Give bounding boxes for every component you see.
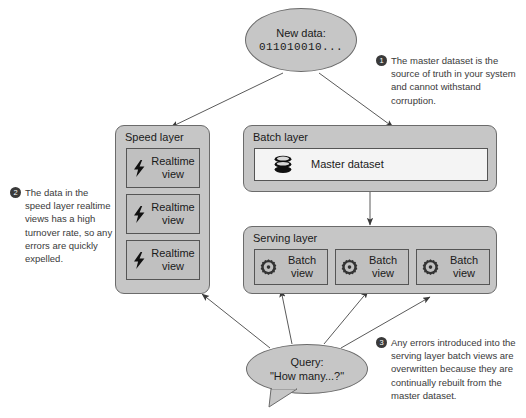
database-icon <box>255 154 311 176</box>
gear-icon <box>336 258 362 277</box>
query-node: Query: "How many...?" <box>246 344 368 394</box>
callout-3: 3 Any errors introduced into the serving… <box>376 336 522 402</box>
query-bubble-tail <box>267 388 301 408</box>
callout-2: 2 The data in the speed layer realtime v… <box>10 186 116 265</box>
speed-layer-panel: Speed layer Realtime view Realtime view <box>115 125 210 294</box>
master-dataset-label: Master dataset <box>311 158 384 171</box>
batch-layer-panel: Batch layer Master dataset <box>243 125 497 192</box>
edge-query-to-speed <box>202 294 270 348</box>
realtime-view-2[interactable]: Realtime view <box>126 194 200 234</box>
realtime-view-label: Realtime view <box>151 201 199 227</box>
realtime-view-3[interactable]: Realtime view <box>126 240 200 280</box>
callout-1-badge: 1 <box>376 55 387 66</box>
callout-1-text: The master dataset is the source of trut… <box>391 54 518 107</box>
diagram-canvas: New data: 011010010... Speed layer Realt… <box>0 0 526 418</box>
edge-query-to-batchview-1 <box>281 290 292 344</box>
serving-layer-panel: Serving layer Batch view <box>243 226 497 294</box>
gear-icon <box>417 258 443 277</box>
query-label: Query: <box>290 355 323 369</box>
callout-1: 1 The master dataset is the source of tr… <box>376 54 518 107</box>
batch-layer-title: Batch layer <box>253 131 308 143</box>
serving-layer-title: Serving layer <box>253 232 317 244</box>
realtime-view-1[interactable]: Realtime view <box>126 148 200 188</box>
master-dataset-box[interactable]: Master dataset <box>254 148 488 181</box>
lightning-icon <box>127 252 151 269</box>
callout-2-badge: 2 <box>10 187 21 198</box>
edge-newdata-to-speed <box>171 73 283 127</box>
callout-2-text: The data in the speed layer realtime vie… <box>25 186 116 265</box>
new-data-node: New data: 011010010... <box>245 8 357 72</box>
lightning-icon <box>127 206 151 223</box>
realtime-view-label: Realtime view <box>151 155 199 181</box>
edge-query-to-batchview-2 <box>324 291 368 344</box>
batch-view-2[interactable]: Batch view <box>335 249 409 285</box>
realtime-view-label: Realtime view <box>151 247 199 273</box>
gear-icon <box>255 258 281 277</box>
new-data-label: New data: <box>276 26 326 40</box>
batch-view-label: Batch view <box>443 254 489 280</box>
query-value: "How many...?" <box>270 369 344 383</box>
new-data-value: 011010010... <box>259 40 343 54</box>
callout-3-badge: 3 <box>376 337 387 348</box>
batch-view-label: Batch view <box>281 254 327 280</box>
speed-layer-title: Speed layer <box>125 131 184 143</box>
batch-view-3[interactable]: Batch view <box>416 249 490 285</box>
batch-view-label: Batch view <box>362 254 408 280</box>
batch-view-1[interactable]: Batch view <box>254 249 328 285</box>
callout-3-text: Any errors introduced into the serving l… <box>391 336 522 402</box>
lightning-icon <box>127 160 151 177</box>
